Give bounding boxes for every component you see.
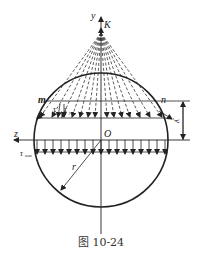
radius-line bbox=[61, 140, 101, 190]
m-label: m bbox=[38, 94, 46, 105]
n-label: n bbox=[161, 94, 166, 105]
k-label: K bbox=[103, 19, 112, 30]
z-axis-label: z bbox=[13, 128, 18, 139]
tau-max-arrows bbox=[37, 140, 168, 154]
tau-arrow bbox=[58, 104, 60, 117]
tau-y-subscript: y bbox=[68, 110, 72, 115]
origin-label: O bbox=[104, 128, 111, 139]
radius-label: r bbox=[72, 161, 76, 172]
dimension-y-label: y bbox=[173, 118, 183, 123]
tau-y-label: τ bbox=[64, 105, 68, 114]
tau-max-label: τ bbox=[20, 149, 24, 158]
tau-label: τ bbox=[53, 105, 57, 114]
tau-max-subscript: max bbox=[25, 153, 32, 158]
y-axis-label: y bbox=[90, 10, 96, 21]
figure-caption: 图 10-24 bbox=[0, 233, 202, 249]
stress-distribution-diagram: y K z O m n τ τ y τ max r y bbox=[0, 0, 202, 255]
